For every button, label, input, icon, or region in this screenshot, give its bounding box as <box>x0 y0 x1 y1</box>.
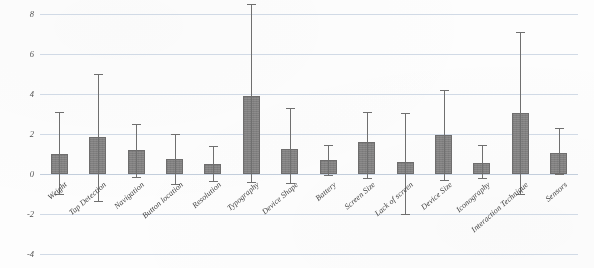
error-bar-cap-upper <box>209 146 218 147</box>
error-bar-cap-upper <box>247 4 256 5</box>
gridline-8 <box>40 14 578 15</box>
error-bar-cap-upper <box>516 32 525 33</box>
x-tick-label: Resolution <box>190 180 222 210</box>
error-bar-line <box>328 145 329 175</box>
gridline-4 <box>40 94 578 95</box>
x-tick-label: Iconography <box>454 180 492 214</box>
y-tick-label: 6 <box>8 49 34 59</box>
error-bar-cap-upper <box>478 145 487 146</box>
y-tick-label: 2 <box>8 129 34 139</box>
error-bar-cap-upper <box>55 112 64 113</box>
x-tick-label: Device Size <box>419 180 454 212</box>
error-bar-line <box>444 90 445 180</box>
error-bar-cap-upper <box>363 112 372 113</box>
error-bar-cap-lower <box>324 175 333 176</box>
error-bar-line <box>290 108 291 183</box>
plot-area: 86420-2-4 WeightTap DetectionNavigationB… <box>40 14 578 254</box>
error-bar-line <box>175 134 176 184</box>
error-bar-cap-upper <box>440 90 449 91</box>
error-bar-cap-lower <box>94 201 103 202</box>
error-bar-cap-lower <box>132 177 141 178</box>
gridline-6 <box>40 54 578 55</box>
x-tick-label: Navigation <box>112 180 145 211</box>
y-tick-label: 4 <box>8 89 34 99</box>
x-tick-label: Screen Size <box>342 180 376 211</box>
error-bar-line <box>482 145 483 178</box>
x-tick-label: Sensors <box>543 180 568 204</box>
error-bar-line <box>405 113 406 214</box>
error-bar-cap-upper <box>171 134 180 135</box>
gridline-0 <box>40 174 578 175</box>
x-tick-label: Lack of screen <box>373 180 415 218</box>
gridline-2 <box>40 134 578 135</box>
error-bar-cap-upper <box>286 108 295 109</box>
error-bar-cap-upper <box>555 128 564 129</box>
error-bar-line <box>520 32 521 194</box>
error-bar-line <box>251 4 252 182</box>
error-bar-cap-upper <box>132 124 141 125</box>
error-bar-cap-upper <box>94 74 103 75</box>
error-bar-cap-upper <box>324 145 333 146</box>
error-bar-cap-lower <box>555 174 564 175</box>
bar-chart: 86420-2-4 WeightTap DetectionNavigationB… <box>0 0 594 268</box>
y-tick-label: 8 <box>8 9 34 19</box>
y-tick-label: 0 <box>8 169 34 179</box>
error-bar-line <box>367 112 368 178</box>
x-tick-label: Device Shape <box>260 180 300 216</box>
error-bar-cap-upper <box>401 113 410 114</box>
y-tick-label: -2 <box>8 209 34 219</box>
x-tick-label: Weight <box>46 180 69 202</box>
error-bar-line <box>136 124 137 177</box>
y-tick-label: -4 <box>8 249 34 259</box>
gridline--4 <box>40 254 578 255</box>
x-tick-label: Tap Detection <box>67 180 108 217</box>
error-bar-line <box>559 128 560 174</box>
x-tick-label: Typography <box>226 180 261 212</box>
error-bar-line <box>213 146 214 181</box>
error-bar-cap-lower <box>401 214 410 215</box>
x-tick-label: Battery <box>314 180 338 203</box>
